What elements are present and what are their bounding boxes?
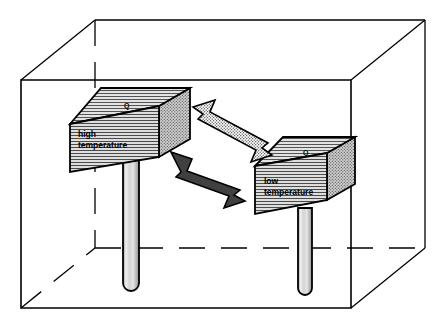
heat-label-low: Q bbox=[303, 149, 309, 157]
arrow-low-to-high bbox=[193, 100, 272, 162]
stem-low-temperature bbox=[298, 208, 312, 295]
body-low-temperature: Q low temperature bbox=[255, 137, 355, 295]
body-high-temperature: Q high temperature bbox=[70, 88, 190, 291]
enclosure-edge-top-left bbox=[21, 20, 95, 80]
body-high-label-line1: high bbox=[78, 129, 96, 139]
figure-canvas: Q high temperature Q low temperature bbox=[0, 0, 447, 328]
enclosure-edge-bottom-right bbox=[351, 248, 425, 308]
heat-label-high: Q bbox=[124, 102, 130, 110]
enclosure-hidden-edge-bottom-left bbox=[21, 248, 95, 308]
thermodynamics-heat-transfer-diagram: Q high temperature Q low temperature bbox=[0, 0, 447, 328]
arrow-high-to-low bbox=[171, 152, 245, 208]
stem-low-temperature-shaft bbox=[298, 208, 312, 295]
arrow-low-to-high-shape bbox=[193, 100, 272, 162]
body-low-label-line1: low bbox=[264, 176, 279, 186]
enclosure-edge-top-right bbox=[351, 20, 425, 80]
body-high-label-line2: temperature bbox=[78, 140, 127, 150]
arrow-high-to-low-shape bbox=[171, 152, 245, 208]
body-low-label-line2: temperature bbox=[264, 187, 313, 197]
stem-high-temperature-shaft bbox=[123, 160, 139, 291]
stem-high-temperature bbox=[123, 160, 139, 291]
